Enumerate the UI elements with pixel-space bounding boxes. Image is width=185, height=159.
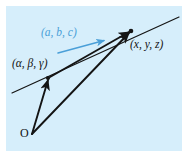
point-marker-xyz [129,29,134,34]
label-origin: O [20,127,29,139]
label-point-x-y-z: (x, y, z) [130,39,163,51]
point-marker-alpha [46,76,50,80]
label-point-alpha-beta-gamma: (α, β, γ) [12,58,47,70]
vector-diagram-figure: (a, b, c) (α, β, γ) (x, y, z) O [0,0,185,159]
label-direction-vector: (a, b, c) [41,27,77,39]
